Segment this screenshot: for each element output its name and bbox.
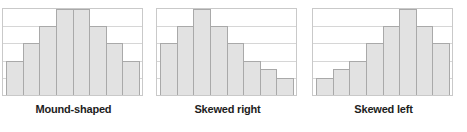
histogram-panel-mound-shaped: Mound-shaped xyxy=(2,0,145,132)
histogram-panel-skewed-right: Skewed right xyxy=(156,0,299,132)
histogram-bar xyxy=(39,26,57,95)
histogram-bar xyxy=(23,43,41,95)
panel-caption: Skewed right xyxy=(156,103,299,115)
histogram-bar xyxy=(177,26,195,95)
histogram-bar xyxy=(432,43,450,95)
histogram-bar xyxy=(122,61,140,95)
plot-area xyxy=(156,8,297,96)
histogram-bar xyxy=(6,61,24,95)
histogram-panel-skewed-left: Skewed left xyxy=(312,0,455,132)
histogram-bar xyxy=(416,26,434,95)
plot-area xyxy=(2,8,143,96)
histogram-bar xyxy=(366,43,384,95)
panel-caption: Skewed left xyxy=(312,103,455,115)
bar-group xyxy=(157,9,296,95)
histogram-bar xyxy=(349,61,367,95)
plot-area xyxy=(312,8,453,96)
histogram-bar xyxy=(333,69,351,95)
histogram-shapes-figure: Mound-shaped Skewed right Skewed left xyxy=(0,0,467,132)
histogram-bar xyxy=(260,69,278,95)
bar-group xyxy=(313,9,452,95)
histogram-bar xyxy=(276,78,294,95)
histogram-bar xyxy=(160,43,178,95)
histogram-bar xyxy=(243,61,261,95)
histogram-bar xyxy=(316,78,334,95)
histogram-bar xyxy=(73,9,91,95)
histogram-bar xyxy=(56,9,74,95)
histogram-bar xyxy=(399,9,417,95)
histogram-bar xyxy=(106,43,124,95)
histogram-bar xyxy=(89,26,107,95)
bar-group xyxy=(3,9,142,95)
panel-caption: Mound-shaped xyxy=(2,103,145,115)
histogram-bar xyxy=(227,43,245,95)
histogram-bar xyxy=(193,9,211,95)
histogram-bar xyxy=(383,26,401,95)
histogram-bar xyxy=(210,26,228,95)
